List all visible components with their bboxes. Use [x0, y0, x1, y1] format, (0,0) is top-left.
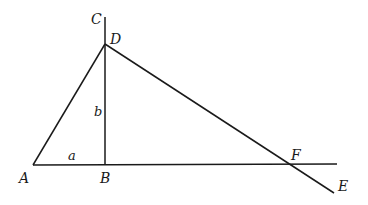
- point-label-b: B: [99, 170, 110, 186]
- point-label-d: D: [109, 31, 121, 47]
- point-label-a: A: [17, 170, 29, 186]
- point-label-f: F: [290, 147, 302, 163]
- point-label-c: C: [91, 11, 102, 27]
- line-d-e: [105, 44, 334, 193]
- segment-label-a: a: [68, 148, 76, 163]
- segment-labels: a b: [68, 104, 102, 163]
- point-label-e: E: [337, 178, 348, 194]
- geometry-diagram: C D A B F E a b: [0, 0, 368, 205]
- segment-label-b: b: [94, 104, 102, 119]
- line-group: [33, 17, 337, 193]
- point-labels: C D A B F E: [17, 11, 348, 194]
